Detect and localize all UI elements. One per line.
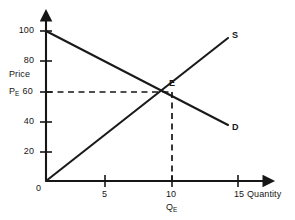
equilibrium-point-label: E xyxy=(169,79,175,88)
supply-demand-chart: 100 80 40 20 PE60 Price 0 5 10 15 QE Qua… xyxy=(0,0,295,220)
y-tick-label-100: 100 xyxy=(8,26,34,35)
supply-curve-label: S xyxy=(232,31,238,40)
demand-curve xyxy=(46,31,228,125)
x-tick-label-10: 10 xyxy=(166,190,176,199)
y-tick-label-40: 40 xyxy=(8,117,34,126)
equilibrium-quantity-label: QE xyxy=(166,203,178,212)
x-tick-label-15: 15 xyxy=(234,190,244,199)
chart-canvas xyxy=(0,0,295,220)
y-tick-label-20: 20 xyxy=(8,147,34,156)
x-axis-title: Quantity xyxy=(247,190,281,199)
quantity-subscript: E xyxy=(173,206,177,213)
equilibrium-price-label: PE60 xyxy=(9,87,33,96)
origin-label: 0 xyxy=(36,184,41,193)
y-tick-label-80: 80 xyxy=(8,56,34,65)
x-tick-label-5: 5 xyxy=(102,190,107,199)
y-axis-title: Price xyxy=(9,70,30,79)
demand-curve-label: D xyxy=(232,123,239,132)
supply-curve xyxy=(46,38,228,181)
price-value: 60 xyxy=(23,86,33,96)
price-subscript: E xyxy=(15,90,19,97)
